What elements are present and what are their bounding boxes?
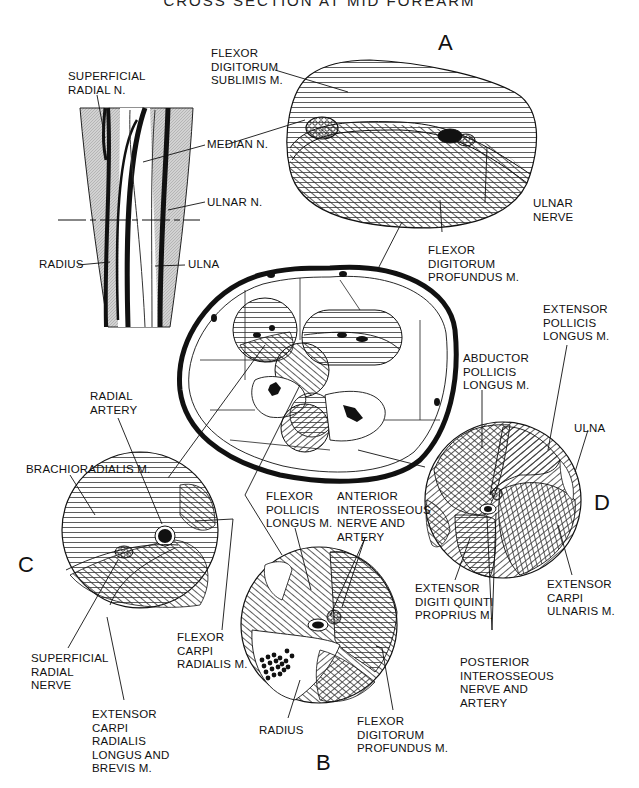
panel-b-section [241, 547, 397, 703]
forearm-outline [58, 108, 200, 327]
label-anterior-interosseous: ANTERIOR INTEROSSEOUS NERVE AND ARTERY [337, 490, 431, 544]
diagram-title: CROSS SECTION AT MID FOREARM [0, 0, 639, 9]
label-posterior-interosseous: POSTERIOR INTEROSSEOUS NERVE AND ARTERY [460, 656, 554, 710]
label-brachioradialis: BRACHIORADIALIS M. [26, 463, 150, 477]
label-ulnar-nerve: ULNAR NERVE [533, 197, 573, 224]
label-radial-artery: RADIAL ARTERY [90, 390, 137, 417]
label-flexor-digitorum-profundus-a: FLEXOR DIGITORUM PROFUNDUS M. [428, 244, 519, 285]
label-radius-b: RADIUS [259, 724, 304, 738]
label-superficial-radial-nerve: SUPERFICIAL RADIAL NERVE [31, 652, 109, 693]
radial-artery-c [158, 529, 172, 543]
label-median-n: MEDIAN N. [207, 138, 268, 152]
label-flexor-digitorum-sublimis: FLEXOR DIGITORUM SUBLIMIS M. [211, 47, 283, 88]
label-ulna-d: ULNA [574, 422, 605, 436]
label-ulna-forearm: ULNA [188, 258, 219, 272]
label-superficial-radial-n: SUPERFICIAL RADIAL N. [68, 70, 146, 97]
panel-d-section [425, 422, 581, 578]
label-radius-forearm: RADIUS [39, 258, 84, 272]
label-extensor-pollicis-longus: EXTENSOR POLLICIS LONGUS M. [543, 303, 609, 344]
anterior-interosseous-artery-b [312, 622, 324, 629]
label-flexor-pollicis-longus: FLEXOR POLLICIS LONGUS M. [266, 490, 332, 531]
label-flexor-carpi-radialis: FLEXOR CARPI RADIALIS M. [177, 631, 248, 672]
label-ulnar-n: ULNAR N. [207, 196, 262, 210]
posterior-interosseous-artery-d [484, 506, 492, 512]
label-extensor-carpi-radialis: EXTENSOR CARPI RADIALIS LONGUS AND BREVI… [92, 708, 169, 776]
label-flexor-digitorum-profundus-b: FLEXOR DIGITORUM PROFUNDUS M. [357, 715, 448, 756]
posterior-interosseous-nerve-d [492, 488, 502, 500]
panel-label-a: A [438, 30, 453, 56]
panel-label-d: D [594, 490, 610, 516]
central-cross-section [180, 267, 457, 481]
label-abductor-pollicis-longus: ABDUCTOR POLLICIS LONGUS M. [463, 352, 529, 393]
ulnar-nerve-a [457, 134, 475, 146]
anterior-interosseous-nerve-b [327, 610, 341, 624]
median-nerve-a [306, 117, 338, 139]
label-extensor-carpi-ulnaris: EXTENSOR CARPI ULNARIS M. [547, 578, 615, 619]
label-extensor-digiti-quinti: EXTENSOR DIGITI QUINTI PROPRIUS M. [415, 582, 494, 623]
panel-label-b: B [316, 750, 331, 776]
panel-label-c: C [18, 552, 34, 578]
